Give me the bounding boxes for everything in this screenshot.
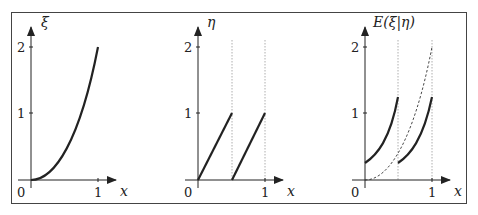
eta-segment-1 <box>198 113 232 180</box>
panel-xi: ξ x 0 1 1 2 <box>17 14 128 200</box>
x-axis-label: x <box>454 183 462 199</box>
cond-exp-segment-1 <box>365 97 398 163</box>
y-tick-1: 1 <box>184 106 192 121</box>
origin-label: 0 <box>184 185 192 200</box>
xi-reference-dashed <box>365 47 432 180</box>
figure: ξ x 0 1 1 2 η x 0 1 1 2 E(ξ|η) x <box>0 0 478 215</box>
panel-conditional-expectation: E(ξ|η) x 0 1 1 2 <box>351 14 462 200</box>
y-tick-2: 2 <box>184 40 192 55</box>
origin-label: 0 <box>351 185 359 200</box>
origin-label: 0 <box>17 185 25 200</box>
y-tick-2: 2 <box>351 40 359 55</box>
x-axis-label: x <box>287 183 295 199</box>
x-tick-1: 1 <box>261 185 269 200</box>
y-tick-2: 2 <box>17 40 25 55</box>
y-axis-label: E(ξ|η) <box>372 14 415 31</box>
x-axis-label: x <box>120 183 128 199</box>
xi-curve <box>31 47 98 180</box>
eta-segment-2 <box>232 113 265 180</box>
cond-exp-segment-2 <box>398 97 432 163</box>
y-axis-label: η <box>207 14 216 30</box>
panel-eta: η x 0 1 1 2 <box>184 14 295 200</box>
x-tick-1: 1 <box>428 185 436 200</box>
x-tick-1: 1 <box>94 185 102 200</box>
y-tick-1: 1 <box>351 106 359 121</box>
y-axis-label: ξ <box>41 14 50 30</box>
y-tick-1: 1 <box>17 106 25 121</box>
